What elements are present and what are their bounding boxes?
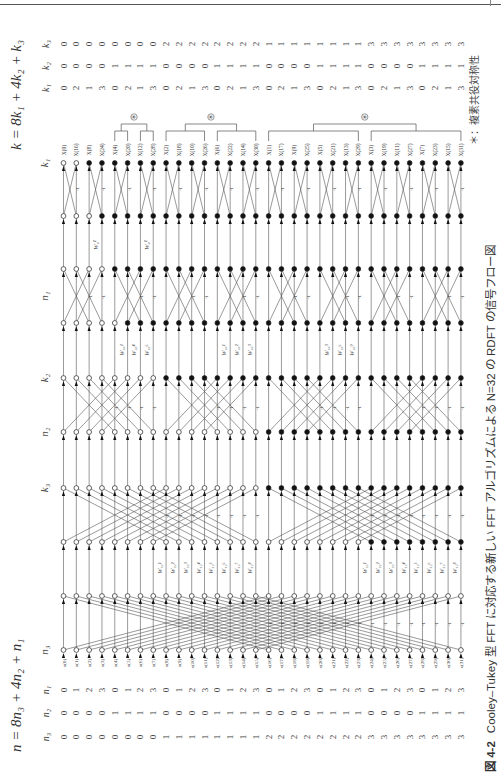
input-index-value: 3 — [379, 734, 389, 739]
input-index-value: 0 — [71, 734, 81, 739]
flow-node — [407, 214, 412, 219]
flow-node — [433, 267, 438, 272]
flow-node — [138, 594, 143, 599]
flow-node — [61, 376, 66, 381]
output-index-value: 0 — [161, 63, 171, 68]
flow-node — [433, 540, 438, 545]
flow-node — [112, 376, 117, 381]
arrow-head-icon — [382, 381, 385, 386]
minus-one-label: -1 — [204, 294, 209, 299]
flow-node — [87, 430, 92, 435]
flow-node — [343, 267, 348, 272]
output-label: X(27) — [407, 143, 414, 156]
flow-node — [215, 486, 220, 491]
twiddle-factor-label: W₃₂⁸ — [247, 562, 253, 573]
output-label: X(29) — [355, 143, 362, 156]
output-index-value: 3 — [379, 41, 389, 46]
flow-node — [279, 267, 284, 272]
twiddle-factor-label: W₃₂⁴ — [401, 562, 407, 573]
flow-node — [318, 161, 323, 166]
arrow-head-icon — [152, 381, 155, 386]
arrow-head-icon — [203, 653, 206, 658]
input-index-value: 0 — [97, 710, 107, 715]
flow-node — [407, 161, 412, 166]
output-index-row-label: k₁ — [40, 84, 51, 92]
arrow-head-icon — [241, 545, 244, 550]
input-index-value: 0 — [59, 710, 69, 715]
flow-node — [202, 648, 207, 653]
minus-one-label: -1 — [191, 294, 196, 299]
flow-node — [151, 486, 156, 491]
input-label: x(9) — [177, 659, 182, 668]
output-index-row-label: k₂ — [40, 62, 51, 70]
flow-node — [433, 321, 438, 326]
flow-node — [61, 161, 66, 166]
flow-node — [266, 430, 271, 435]
arrow-head-icon — [331, 326, 334, 331]
input-index-value: 0 — [59, 687, 69, 692]
output-index-value: 0 — [379, 63, 389, 68]
arrow-head-icon — [216, 545, 219, 550]
flow-node — [382, 161, 387, 166]
flow-node — [266, 376, 271, 381]
output-label: X(8) — [86, 145, 93, 156]
input-index-value: 1 — [225, 711, 235, 716]
output-index-value: 1 — [238, 86, 248, 91]
flow-node — [292, 486, 297, 491]
flow-node — [87, 214, 92, 219]
arrow-head-icon — [100, 435, 103, 440]
flow-node — [125, 540, 130, 545]
arrow-head-icon — [152, 435, 155, 440]
output-index-value: 0 — [366, 63, 376, 68]
flow-node — [292, 540, 297, 545]
output-label: X(28) — [150, 143, 157, 156]
output-index-value: 3 — [456, 41, 466, 46]
flow-node — [330, 267, 335, 272]
arrow-head-icon — [62, 491, 65, 496]
arrow-head-icon — [267, 545, 270, 550]
flow-node — [446, 321, 451, 326]
arrow-head-icon — [62, 272, 65, 277]
arrow-head-icon — [88, 653, 91, 658]
arrow-head-icon — [408, 435, 411, 440]
twiddle-factor-label: W₃₂³ — [388, 562, 394, 573]
flow-node — [215, 267, 220, 272]
input-label: x(15) — [254, 657, 259, 668]
arrow-head-icon — [267, 272, 270, 277]
output-index-value: 0 — [174, 63, 184, 68]
flow-node — [433, 161, 438, 166]
arrow-head-icon — [177, 381, 180, 386]
input-index-row-label: n₁ — [40, 686, 51, 694]
flow-node — [382, 648, 387, 653]
flow-node — [343, 376, 348, 381]
flow-node — [305, 376, 310, 381]
output-index-value: 1 — [289, 86, 299, 91]
arrow-head-icon — [357, 491, 360, 496]
flow-node — [138, 321, 143, 326]
flow-node — [420, 486, 425, 491]
arrow-head-icon — [88, 435, 91, 440]
flow-node — [74, 161, 79, 166]
input-index-value: 1 — [328, 711, 338, 716]
arrow-head-icon — [447, 491, 450, 496]
arrow-head-icon — [203, 326, 206, 331]
flow-node — [356, 648, 361, 653]
flow-node — [138, 376, 143, 381]
arrow-head-icon — [280, 545, 283, 550]
arrow-head-icon — [113, 381, 116, 386]
twiddle-factor-label: W₁₆³ — [324, 344, 330, 355]
arrow-head-icon — [395, 272, 398, 277]
flow-node — [138, 161, 143, 166]
minus-one-label: -1 — [332, 621, 337, 626]
arrow-head-icon — [305, 381, 308, 386]
input-index-value: 0 — [379, 710, 389, 715]
flow-node — [87, 594, 92, 599]
flow-node — [330, 540, 335, 545]
flow-node — [100, 376, 105, 381]
flow-node — [253, 486, 258, 491]
flow-node — [330, 161, 335, 166]
arrow-head-icon — [382, 653, 385, 658]
flow-node — [87, 648, 92, 653]
arrow-head-icon — [75, 491, 78, 496]
arrow-head-icon — [267, 326, 270, 331]
